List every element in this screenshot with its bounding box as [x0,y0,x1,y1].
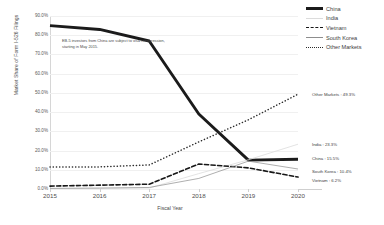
end-label: Vietnam : 6.2% [312,178,341,183]
line-chart: Market Share of Form I-526 Filings Fisca… [0,0,384,225]
y-tick-label: 0.0% [8,186,48,191]
legend-key-icon [306,14,323,23]
legend-item-label: Other Markets [323,44,361,50]
x-axis-title: Fiscal Year [45,205,295,211]
legend-key-icon [306,43,323,52]
legend-item-label: India [323,15,338,21]
legend-item-china[interactable]: China [306,4,384,13]
y-tick-label: 10.0% [8,167,48,172]
legend-item-label: China [323,6,341,12]
y-tick-label: 90.0% [8,13,48,18]
x-tick-label: 2018 [181,192,217,199]
y-tick-label: 40.0% [8,110,48,115]
y-axis-tick-labels: 90.0%80.0%70.0%60.0%50.0%40.0%30.0%20.0%… [4,16,48,189]
legend-item-other-markets[interactable]: Other Markets [306,43,384,52]
legend-item-south-korea[interactable]: South Korea [306,33,384,42]
x-tick-label: 2016 [82,192,118,199]
y-tick-label: 70.0% [8,52,48,57]
series-line-india [50,144,298,188]
y-tick-label: 80.0% [8,33,48,38]
y-tick-label: 30.0% [8,129,48,134]
legend: ChinaIndiaVietnamSouth KoreaOther Market… [306,4,384,52]
end-label: China : 15.5% [312,156,339,161]
legend-key-icon [306,4,323,13]
legend-item-india[interactable]: India [306,14,384,23]
legend-key-icon [306,33,323,42]
x-tick-label: 2019 [230,192,266,199]
legend-item-label: South Korea [323,35,357,41]
legend-item-vietnam[interactable]: Vietnam [306,23,384,32]
end-label: India : 23.3% [312,142,337,147]
y-tick-label: 20.0% [8,148,48,153]
legend-item-label: Vietnam [323,25,346,31]
x-tick-label: 2015 [32,192,68,199]
end-label: South Korea : 10.4% [312,169,352,174]
x-tick-label: 2020 [280,192,316,199]
gridline [50,189,298,190]
x-tick-label: 2017 [131,192,167,199]
legend-key-icon [306,23,323,32]
retrogression-annotation: EB-5 investors from China are subject to… [62,38,167,50]
y-tick-label: 50.0% [8,90,48,95]
end-label: Other Markets : 49.3% [312,92,355,97]
y-tick-label: 60.0% [8,71,48,76]
x-axis-tick-labels: 201520162017201820192020 [50,191,298,205]
